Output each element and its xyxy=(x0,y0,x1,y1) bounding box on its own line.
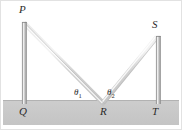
reflected-beam xyxy=(23,22,159,104)
angle-label-theta-1: θ1 xyxy=(74,88,82,99)
left-pole xyxy=(22,22,26,104)
point-label-S: S xyxy=(152,19,158,30)
right-pole xyxy=(156,36,160,104)
physics-reflection-diagram: P S Q R T θ1 θ2 xyxy=(0,0,182,130)
point-label-P: P xyxy=(19,4,26,15)
theta-2-subscript: 2 xyxy=(111,92,114,99)
point-label-T: T xyxy=(152,106,158,117)
angle-label-theta-2: θ2 xyxy=(107,88,115,99)
point-label-Q: Q xyxy=(19,106,27,117)
theta-1-subscript: 1 xyxy=(78,92,81,99)
point-label-R: R xyxy=(100,106,107,117)
